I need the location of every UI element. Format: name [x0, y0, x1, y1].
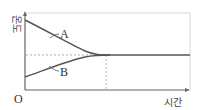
- series-b-label: B: [60, 65, 68, 79]
- series-a-label: A: [60, 27, 69, 41]
- temperature-time-chart: A B O 시간 온도: [0, 0, 197, 110]
- x-axis-label: 시간: [164, 97, 182, 108]
- y-axis-label: 온도: [11, 15, 22, 33]
- curve-a: [25, 20, 190, 55]
- x-axis-arrow-icon: [185, 88, 190, 92]
- origin-label: O: [14, 92, 23, 106]
